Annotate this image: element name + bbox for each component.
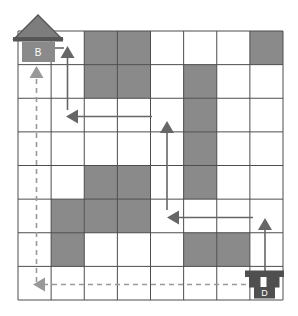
dashed-route-arrow-head-icon [30, 66, 44, 78]
blocked-cell [184, 65, 217, 99]
truck-marker: D [245, 271, 284, 299]
blocked-cell [84, 31, 117, 65]
blocked-cell [117, 199, 150, 233]
solid-route-arrow-head-icon [258, 218, 272, 230]
solid-route-arrow-head-icon [66, 110, 78, 124]
blocked-cell [51, 233, 84, 267]
truck-right-shoulder [267, 277, 280, 288]
maze-svg: B D [0, 0, 298, 316]
blocked-cell [51, 199, 84, 233]
house-marker: B [13, 15, 63, 62]
house-roof-icon [14, 15, 62, 39]
maze-diagram: B D [0, 0, 298, 316]
blocked-cell [184, 233, 217, 267]
blocked-cell [184, 132, 217, 166]
dashed-route-arrow-head-icon [33, 278, 45, 292]
blocked-cell [84, 166, 117, 200]
truck-left-shoulder [249, 277, 261, 288]
truck-top-bar [245, 271, 284, 278]
blocked-cell [184, 166, 217, 200]
blocked-cell [250, 31, 283, 65]
solid-route-arrow-head-icon [167, 211, 179, 225]
house-label: B [35, 47, 42, 58]
blocked-cell [84, 65, 117, 99]
blocked-cell [217, 233, 250, 267]
blocked-cell [117, 166, 150, 200]
blocked-cell [117, 65, 150, 99]
truck-label: D [261, 288, 268, 298]
house-eave [13, 37, 63, 42]
blocked-cell [84, 199, 117, 233]
blocked-cell [184, 98, 217, 132]
solid-route-arrow-head-icon [160, 121, 174, 133]
blocked-cell [117, 31, 150, 65]
